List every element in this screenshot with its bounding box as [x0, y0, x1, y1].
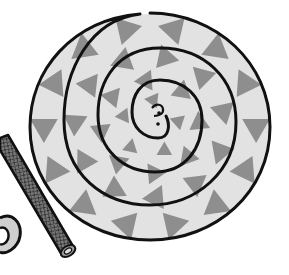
center-dot [156, 122, 160, 126]
spiral-disc [30, 13, 270, 240]
center-dot [157, 111, 161, 115]
small-coil [0, 216, 20, 252]
illustration [0, 0, 289, 275]
